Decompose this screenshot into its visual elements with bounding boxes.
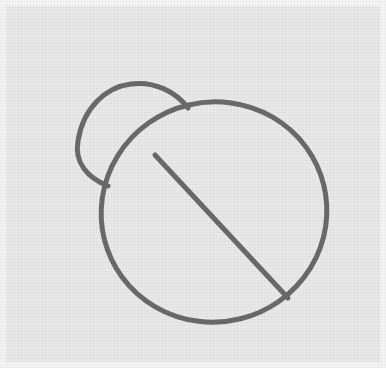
- line-drawing-figure: [0, 0, 386, 368]
- wing-divider-line-shape: [155, 155, 288, 298]
- body-ellipse-shape: [78, 78, 351, 346]
- drawing-canvas: [0, 0, 386, 368]
